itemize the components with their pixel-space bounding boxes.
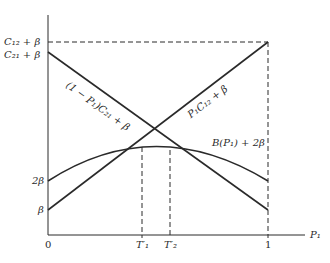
y-tick-c21-beta: C₂₁ + β xyxy=(4,50,40,60)
decreasing-line xyxy=(48,52,268,210)
concave-curve-label: B(P₁) + 2β xyxy=(212,138,265,148)
x-tick-0: 0 xyxy=(45,240,51,250)
y-tick-c12-beta: C₁₂ + β xyxy=(4,37,40,47)
x-tick-t1: T′₁ xyxy=(136,240,149,250)
concave-curve xyxy=(48,147,268,182)
y-tick-2beta: 2β xyxy=(32,176,44,186)
x-tick-1: 1 xyxy=(265,240,271,250)
y-tick-beta: β xyxy=(38,205,44,215)
x-axis-label: P₁ xyxy=(310,230,321,240)
increasing-line xyxy=(48,42,268,210)
diagram-canvas xyxy=(0,0,330,263)
x-tick-t2: T′₂ xyxy=(164,240,177,250)
